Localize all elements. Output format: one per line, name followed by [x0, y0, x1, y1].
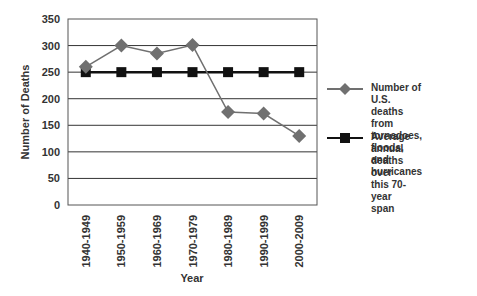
data-point-square	[259, 67, 269, 77]
series-lines	[79, 38, 306, 143]
series-line	[86, 45, 299, 136]
data-point-diamond	[221, 105, 235, 119]
gridlines	[68, 46, 317, 179]
y-tick-label: 200	[42, 93, 60, 105]
x-tick-label: 1940-1949	[80, 215, 92, 268]
data-point-square	[294, 67, 304, 77]
data-point-square	[152, 67, 162, 77]
y-tick-label: 100	[42, 146, 60, 158]
x-tick-label: 1980-1989	[222, 215, 234, 268]
square-marker-icon	[327, 131, 363, 145]
x-tick-label: 1960-1969	[151, 215, 163, 268]
x-axis-title: Year	[180, 272, 204, 284]
y-tick-label: 0	[54, 199, 60, 211]
diamond-marker-icon	[327, 82, 363, 96]
y-tick-label: 350	[42, 13, 60, 25]
data-point-square	[223, 67, 233, 77]
legend-item-average: Average annual deaths over this 70-year …	[327, 131, 410, 215]
data-point-diamond	[292, 129, 306, 143]
x-tick-label: 1970-1979	[187, 215, 199, 268]
data-point-square	[116, 67, 126, 77]
x-tick-label: 2000-2009	[293, 215, 305, 268]
y-axis-title: Number of Deaths	[19, 65, 31, 160]
data-point-diamond	[150, 47, 164, 61]
y-tick-label: 50	[48, 172, 60, 184]
data-point-square	[188, 67, 198, 77]
y-axis-ticks: 050100150200250300350	[42, 13, 60, 211]
y-tick-label: 250	[42, 66, 60, 78]
data-point-diamond	[257, 107, 271, 121]
x-axis-ticks: 1940-19491950-19591960-19691970-19791980…	[80, 215, 305, 268]
x-tick-label: 1990-1999	[258, 215, 270, 268]
data-point-diamond	[114, 39, 128, 53]
data-point-diamond	[186, 38, 200, 52]
legend-label: Average annual deaths over this 70-year …	[371, 131, 410, 215]
x-tick-label: 1950-1959	[115, 215, 127, 268]
y-tick-label: 150	[42, 119, 60, 131]
y-tick-label: 300	[42, 40, 60, 52]
